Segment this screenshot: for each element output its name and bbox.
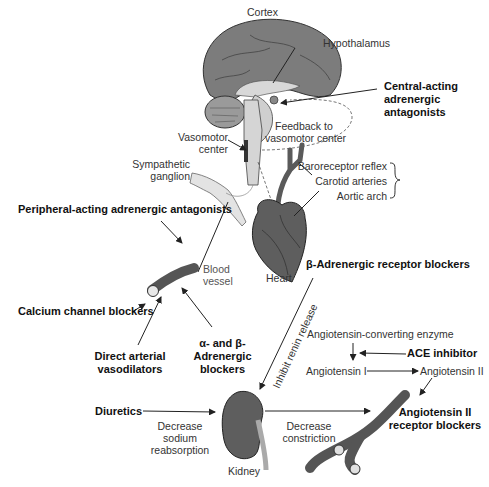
label-blood-vessel: Blood vessel	[203, 263, 233, 287]
label-angiotensin-2: Angiotensin II	[420, 365, 484, 377]
blood-vessel-icon	[148, 268, 195, 297]
label-carotid-arteries: Carotid arteries	[300, 175, 387, 187]
label-angiotensin-1: Angiotensin I	[306, 365, 367, 377]
label-ace-enzyme: Angiotensin-converting enzyme	[307, 328, 454, 340]
drug-peripheral-acting: Peripheral-acting adrenergic antagonists	[18, 203, 232, 216]
kidney-icon	[222, 391, 266, 470]
drug-arb: Angiotensin II receptor blockers	[385, 406, 485, 432]
label-feedback: Feedback to vasomotor center	[265, 120, 346, 144]
drug-ace-inhibitor: ACE inhibitor	[407, 347, 477, 360]
label-vasomotor-center: Vasomotor center	[160, 131, 228, 155]
drug-diuretics: Diuretics	[95, 405, 142, 418]
drug-direct-vasodilators: Direct arterial vasodilators	[85, 350, 175, 376]
diagram-canvas: Cortex Hypothalamus Central-acting adren…	[0, 0, 489, 487]
label-cortex: Cortex	[247, 6, 278, 18]
drug-central-acting: Central-acting adrenergic antagonists	[384, 80, 458, 119]
label-aortic-arch: Aortic arch	[310, 190, 387, 202]
label-kidney: Kidney	[228, 465, 260, 477]
sympathetic-ganglion-icon	[190, 173, 246, 226]
drug-calcium-channel-blockers: Calcium channel blockers	[18, 305, 154, 318]
label-decrease-constriction: Decrease constriction	[278, 420, 340, 444]
label-hypothalamus: Hypothalamus	[323, 37, 390, 49]
drug-alpha-beta-blockers: α- and β- Adrenergic blockers	[185, 337, 260, 376]
label-decrease-sodium: Decrease sodium reabsorption	[145, 420, 215, 456]
label-heart: Heart	[266, 272, 292, 284]
label-sympathetic-ganglion: Sympathetic ganglion	[130, 158, 190, 182]
drug-beta-blockers: β-Adrenergic receptor blockers	[306, 258, 470, 271]
label-baroreceptor-reflex: Baroreceptor reflex	[290, 160, 387, 172]
